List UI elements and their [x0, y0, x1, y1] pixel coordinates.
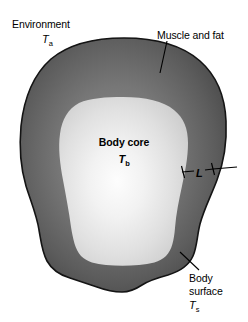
thermal-body-cross-section-figure: Environment Ta Muscle and fat Body core … [0, 0, 248, 322]
body-surface-label-line1: Body [189, 272, 245, 285]
environment-temperature-symbol: Ta [42, 33, 53, 48]
body-surface-temp-subscript: s [196, 305, 200, 314]
body-surface-temp-T: T [189, 299, 196, 311]
environment-label: Environment [12, 18, 70, 31]
muscle-and-fat-label: Muscle and fat [157, 29, 224, 42]
body-core-temperature-symbol: Tb [74, 153, 174, 168]
body-core-temp-subscript: b [125, 159, 129, 168]
body-surface-label: Body surface [189, 272, 245, 297]
body-core-shape [59, 97, 188, 266]
body-core-label: Body core [74, 136, 174, 149]
body-surface-label-line2: surface [189, 285, 245, 298]
thickness-symbol-L: L [196, 167, 203, 179]
body-surface-temperature-symbol: Ts [189, 299, 245, 314]
thickness-label: L [196, 167, 203, 180]
environment-temp-T: T [42, 33, 49, 45]
environment-temp-subscript: a [49, 39, 53, 48]
